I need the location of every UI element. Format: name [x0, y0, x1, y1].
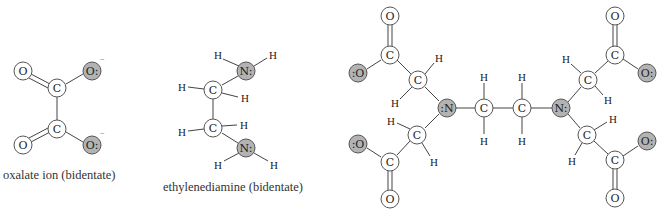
bond — [31, 132, 50, 142]
svg-text:O: O — [385, 10, 394, 23]
svg-text:O: O — [18, 65, 27, 78]
bond — [222, 125, 237, 126]
bond — [623, 59, 638, 69]
svg-text:C: C — [480, 102, 488, 115]
bond — [568, 87, 581, 102]
atom-oxygen: O — [381, 7, 399, 25]
atom-carbon: C — [606, 151, 624, 169]
atom-carbon: C — [48, 120, 66, 138]
atom-carbon: C — [579, 71, 597, 89]
atom-oxygen-donor: :O — [349, 64, 367, 82]
atom-oxygen: O — [14, 62, 32, 80]
svg-text:−: − — [100, 129, 105, 138]
atom-hydrogen: H — [568, 155, 576, 167]
bond — [66, 132, 83, 142]
bond — [400, 87, 412, 99]
atom-carbon: C — [381, 46, 399, 64]
svg-text:O:: O: — [86, 139, 99, 152]
atom-carbon: C — [204, 119, 222, 137]
atom-hydrogen: H — [480, 135, 488, 147]
atom-hydrogen: H — [562, 53, 570, 65]
atom-hydrogen: H — [430, 156, 438, 168]
svg-text:O: O — [610, 10, 619, 23]
chelating-ligands-diagram: O O:− C C O O:− H H H H H H H H N: C C N… — [0, 0, 668, 218]
atom-hydrogen: H — [387, 115, 395, 127]
atom-carbon: C — [204, 81, 222, 99]
svg-text:O:: O: — [86, 65, 99, 78]
atom-hydrogen: H — [178, 126, 186, 138]
atom-hydrogen: H — [178, 81, 186, 93]
svg-text:N:: N: — [240, 65, 253, 78]
bond — [397, 141, 410, 155]
bond — [66, 74, 83, 84]
svg-text:C: C — [53, 82, 61, 95]
bond — [222, 93, 238, 97]
svg-text:C: C — [611, 49, 619, 62]
atom-hydrogen: H — [391, 97, 399, 109]
bond — [29, 78, 48, 88]
svg-text:C: C — [583, 129, 591, 142]
atom-hydrogen: H — [518, 71, 526, 83]
atom-carbon: C — [578, 126, 596, 144]
atom-oxygen: O — [14, 136, 32, 154]
bond — [568, 114, 580, 128]
svg-text:C: C — [611, 154, 619, 167]
svg-text:O: O — [385, 193, 394, 206]
bond — [367, 60, 381, 69]
atom-hydrogen: H — [480, 71, 488, 83]
svg-text::O: :O — [352, 67, 365, 80]
bond — [224, 153, 239, 161]
bond — [188, 87, 204, 89]
atom-carbon: C — [381, 153, 399, 171]
svg-text:C: C — [209, 84, 217, 97]
atom-nitrogen-donor: :N — [438, 99, 456, 117]
svg-text:C: C — [413, 129, 421, 142]
atom-hydrogen: H — [604, 94, 612, 106]
bond — [31, 74, 50, 84]
atom-hydrogen: H — [240, 119, 248, 131]
svg-text:C: C — [386, 156, 394, 169]
bond — [571, 64, 581, 73]
bond — [254, 58, 267, 66]
atom-oxygen: O — [606, 7, 624, 25]
atom-carbon: C — [408, 126, 426, 144]
atom-oxygen-donor: O:− — [83, 129, 105, 154]
svg-text::O: :O — [352, 138, 365, 151]
svg-text:C: C — [209, 122, 217, 135]
bond — [595, 86, 603, 95]
atom-oxygen-donor: O: — [638, 132, 656, 150]
bond — [575, 143, 582, 155]
bond — [367, 148, 381, 157]
bond — [425, 63, 434, 74]
ethylenediamine-structure: H H H H H H H H N: C C N: — [178, 49, 278, 171]
oxalate-structure: O O:− C C O O:− — [14, 55, 105, 154]
svg-text:N:: N: — [555, 102, 568, 115]
bond — [594, 122, 607, 130]
bond — [425, 87, 439, 101]
atom-oxygen-donor: :O — [349, 135, 367, 153]
atom-oxygen-donor: O: — [638, 64, 656, 82]
edta-structure: H H H H H H H H H H H H O C :O C :N C :O… — [349, 7, 656, 208]
ethylenediamine-caption: ethylenediamine (bidentate) — [163, 180, 303, 195]
bond — [397, 123, 410, 129]
svg-text::N: :N — [440, 102, 454, 115]
atom-carbon: C — [409, 71, 427, 89]
atom-hydrogen: H — [609, 113, 617, 125]
svg-text:C: C — [53, 123, 61, 136]
svg-text:C: C — [584, 74, 592, 87]
svg-text:O: O — [610, 192, 619, 205]
atom-oxygen-donor: O:− — [83, 55, 105, 80]
atom-carbon: C — [606, 46, 624, 64]
bond — [425, 114, 439, 128]
bond — [254, 153, 268, 161]
svg-text:C: C — [386, 49, 394, 62]
bond — [595, 61, 608, 73]
atom-carbon: C — [513, 99, 531, 117]
bond — [623, 146, 638, 156]
bond — [188, 129, 204, 131]
atom-oxygen: O — [606, 189, 624, 207]
bond — [422, 143, 430, 156]
atom-hydrogen: H — [269, 49, 277, 61]
atom-carbon: C — [48, 79, 66, 97]
atom-hydrogen: H — [241, 92, 249, 104]
